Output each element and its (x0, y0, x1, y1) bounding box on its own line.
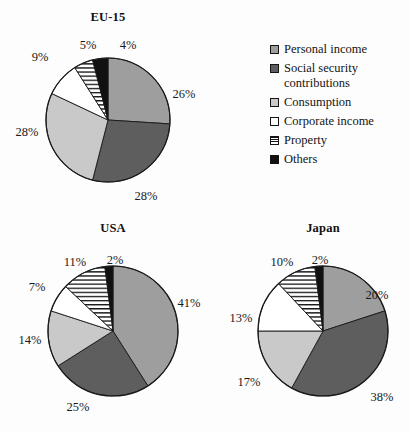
legend-item-corporate-income: Corporate income (270, 114, 408, 129)
legend-swatch-social-security-icon (270, 64, 279, 73)
legend-label-property: Property (284, 133, 327, 148)
legend-label-personal-income: Personal income (284, 42, 367, 57)
legend-item-consumption: Consumption (270, 95, 408, 110)
slice-label-personal: 41% (178, 296, 201, 311)
legend-item-property: Property (270, 133, 408, 148)
slice-label-personal: 26% (173, 87, 196, 102)
chart-title-japan: Japan (263, 221, 383, 236)
legend-item-others: Others (270, 152, 408, 167)
pie-slice-personal (108, 58, 170, 124)
pie-chart-eu15 (43, 55, 173, 185)
slice-label-social: 38% (371, 390, 394, 405)
chart-title-usa: USA (53, 221, 173, 236)
legend-item-personal-income: Personal income (270, 42, 408, 57)
legend-label-others: Others (284, 152, 317, 167)
slice-label-property: 11% (64, 255, 86, 270)
slice-label-consumption: 28% (16, 125, 39, 140)
legend-swatch-personal-income-icon (270, 45, 279, 54)
slice-label-social: 28% (135, 189, 158, 204)
slice-label-consumption: 14% (19, 333, 42, 348)
legend-swatch-corporate-income-icon (270, 117, 279, 126)
slice-label-others: 2% (107, 253, 124, 268)
pie-chart-usa (45, 263, 181, 399)
pie-chart-japan (255, 263, 391, 399)
slice-label-corporate: 9% (32, 50, 49, 65)
slice-label-personal: 20% (366, 288, 389, 303)
legend-label-consumption: Consumption (284, 95, 351, 110)
legend-label-social-security-line2: contributions (284, 76, 350, 90)
slice-label-corporate: 7% (29, 280, 46, 295)
slice-label-consumption: 17% (238, 375, 261, 390)
legend-label-corporate-income: Corporate income (284, 114, 374, 129)
slice-label-corporate: 13% (230, 311, 253, 326)
chart-title-eu15: EU-15 (48, 10, 168, 25)
slice-label-others: 2% (312, 253, 329, 268)
legend-swatch-others-icon (270, 155, 279, 164)
slice-label-property: 10% (271, 255, 294, 270)
legend-swatch-property-icon (270, 136, 279, 145)
slice-label-social: 25% (67, 400, 90, 415)
slice-label-others: 4% (120, 38, 137, 53)
tax-category-legend: Personal income Social security contribu… (270, 42, 408, 171)
slice-label-property: 5% (80, 38, 97, 53)
legend-item-social-security: Social security contributions (270, 61, 408, 90)
legend-label-social-security: Social security contributions (284, 61, 358, 90)
legend-swatch-consumption-icon (270, 98, 279, 107)
legend-label-social-security-line1: Social security (284, 61, 358, 75)
